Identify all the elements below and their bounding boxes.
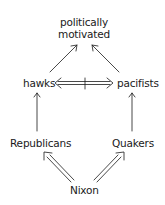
arrow-hawks-to-politically-motivated [50, 45, 77, 72]
arrow-hawks-pacifists-negated-link [55, 78, 113, 89]
arrow-republicans-to-hawks [34, 93, 40, 131]
arrow-nixon-to-quakers [94, 152, 124, 182]
arrow-quakers-to-pacifists [129, 93, 135, 131]
arrow-nixon-to-republicans [44, 152, 74, 182]
arrow-pacifists-to-politically-motivated [92, 45, 119, 72]
edges-layer [0, 0, 165, 205]
